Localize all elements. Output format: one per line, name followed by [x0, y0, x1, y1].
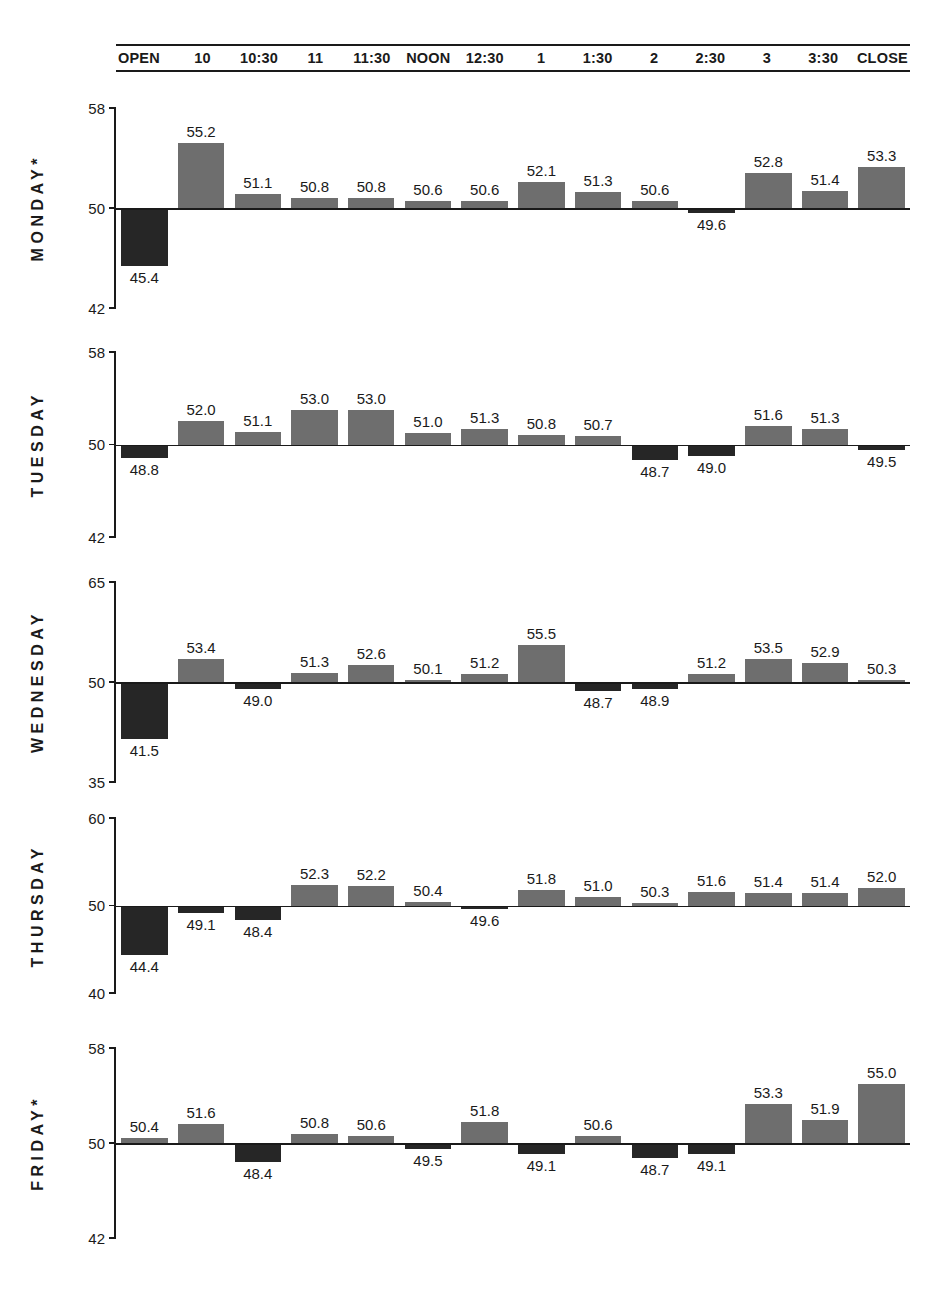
- y-axis-tick-mark: [109, 307, 116, 309]
- day-label-text: FRIDAY*: [30, 1095, 46, 1191]
- day-label-text: TUESDAY: [30, 391, 46, 497]
- bar-negative[interactable]: [688, 445, 735, 457]
- bar-positive[interactable]: [745, 893, 792, 905]
- y-axis-tick-label: 42: [88, 1230, 109, 1245]
- bar-negative[interactable]: [235, 1143, 282, 1162]
- chart-panel-friday: FRIDAY*42505850.451.648.450.850.649.551.…: [0, 1048, 926, 1238]
- bar-negative[interactable]: [518, 1143, 565, 1154]
- plot-area: 41.553.449.051.352.650.151.255.548.748.9…: [116, 582, 910, 782]
- time-slot-3: 3: [739, 50, 795, 66]
- time-slot-close: CLOSE: [851, 50, 909, 66]
- baseline-50: [116, 445, 910, 447]
- y-axis: 425058: [62, 1048, 116, 1238]
- bar-positive[interactable]: [291, 673, 338, 682]
- y-axis-tick-label: 50: [88, 437, 109, 452]
- bar-value-label: 50.6: [443, 182, 527, 197]
- y-axis-tick-mark: [109, 1047, 116, 1049]
- bar-value-label: 52.0: [840, 869, 924, 884]
- bar-positive[interactable]: [802, 429, 849, 444]
- bar-value-label: 51.1: [216, 413, 300, 428]
- bar-value-label: 50.4: [102, 1119, 186, 1134]
- bar-value-label: 50.6: [556, 1117, 640, 1132]
- bar-positive[interactable]: [745, 426, 792, 445]
- bar-positive[interactable]: [518, 435, 565, 444]
- bar-positive[interactable]: [291, 885, 338, 905]
- y-axis-tick-label: 42: [88, 300, 109, 315]
- y-axis-tick-mark: [109, 444, 116, 446]
- y-axis-tick-mark: [109, 351, 116, 353]
- bar-negative[interactable]: [688, 1143, 735, 1154]
- baseline-50: [116, 208, 910, 210]
- bar-value-label: 55.0: [840, 1065, 924, 1080]
- bar-value-label: 50.6: [613, 182, 697, 197]
- bar-value-label: 50.6: [329, 1117, 413, 1132]
- bar-positive[interactable]: [802, 191, 849, 209]
- bar-negative[interactable]: [121, 208, 168, 266]
- plot-area: 48.852.051.153.053.051.051.350.850.748.7…: [116, 352, 910, 537]
- bar-negative[interactable]: [632, 445, 679, 460]
- y-axis-tick-mark: [109, 1237, 116, 1239]
- time-slot-2-30: 2:30: [682, 50, 738, 66]
- time-slot-2: 2: [626, 50, 682, 66]
- bar-positive[interactable]: [461, 201, 508, 209]
- bar-positive[interactable]: [461, 1122, 508, 1143]
- y-axis-tick-mark: [109, 1142, 116, 1144]
- bar-negative[interactable]: [121, 445, 168, 459]
- y-axis-tick-mark: [109, 107, 116, 109]
- bar-value-label: 51.8: [443, 1103, 527, 1118]
- bar-positive[interactable]: [575, 436, 622, 444]
- bar-positive[interactable]: [291, 1134, 338, 1144]
- baseline-50: [116, 1143, 910, 1145]
- y-axis-tick-mark: [109, 817, 116, 819]
- bar-positive[interactable]: [405, 433, 452, 445]
- bar-positive[interactable]: [178, 659, 225, 682]
- bar-positive[interactable]: [348, 1136, 395, 1143]
- y-axis-tick-mark: [109, 905, 116, 907]
- bar-value-label: 49.0: [670, 460, 754, 475]
- time-slot-list: OPEN1010:301111:30NOON12:3011:3022:3033:…: [116, 46, 910, 70]
- bar-value-label: 53.3: [840, 148, 924, 163]
- bar-positive[interactable]: [632, 201, 679, 209]
- day-label: TUESDAY: [0, 352, 46, 537]
- y-axis-tick-mark: [109, 781, 116, 783]
- day-label-text: MONDAY*: [30, 154, 46, 261]
- bar-positive[interactable]: [405, 201, 452, 209]
- bar-value-label: 48.9: [613, 693, 697, 708]
- bar-value-label: 55.5: [499, 626, 583, 641]
- bar-value-label: 50.4: [386, 883, 470, 898]
- time-slot-open: OPEN: [116, 50, 174, 66]
- time-slot-11: 11: [287, 50, 343, 66]
- time-slot-1: 1: [513, 50, 569, 66]
- bar-value-label: 45.4: [102, 270, 186, 285]
- bar-value-label: 52.2: [329, 867, 413, 882]
- bar-negative[interactable]: [121, 682, 168, 739]
- plot-area: 50.451.648.450.850.649.551.849.150.648.7…: [116, 1048, 910, 1238]
- day-label: WEDNESDAY: [0, 582, 46, 782]
- y-axis-tick-label: 60: [88, 810, 109, 825]
- bar-positive[interactable]: [461, 429, 508, 444]
- bar-positive[interactable]: [688, 674, 735, 682]
- time-slot-1-30: 1:30: [569, 50, 625, 66]
- bar-value-label: 53.0: [329, 391, 413, 406]
- bar-value-label: 51.6: [159, 1105, 243, 1120]
- bar-positive[interactable]: [575, 1136, 622, 1143]
- y-axis-tick-label: 40: [88, 985, 109, 1000]
- y-axis: 425058: [62, 352, 116, 537]
- y-axis-tick-label: 58: [88, 344, 109, 359]
- chart-panel-thursday: THURSDAY40506044.449.148.452.352.250.449…: [0, 818, 926, 993]
- time-slot-noon: NOON: [400, 50, 456, 66]
- bar-positive[interactable]: [235, 194, 282, 208]
- y-axis-tick-label: 58: [88, 100, 109, 115]
- baseline-50: [116, 906, 910, 908]
- bar-positive[interactable]: [291, 198, 338, 208]
- bar-positive[interactable]: [235, 432, 282, 445]
- day-label: MONDAY*: [0, 108, 46, 308]
- bar-positive[interactable]: [858, 888, 905, 906]
- day-label: FRIDAY*: [0, 1048, 46, 1238]
- y-axis-tick-mark: [109, 681, 116, 683]
- bar-negative[interactable]: [632, 1143, 679, 1158]
- bar-positive[interactable]: [802, 893, 849, 905]
- bar-positive[interactable]: [802, 1120, 849, 1143]
- bar-positive[interactable]: [348, 198, 395, 208]
- bar-value-label: 53.4: [159, 640, 243, 655]
